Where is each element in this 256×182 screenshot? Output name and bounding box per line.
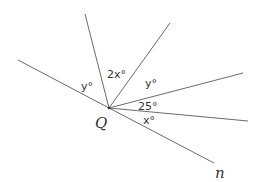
ray-upper-right — [109, 23, 170, 108]
angle-label-right: 25° — [138, 100, 158, 113]
ray-right — [109, 73, 243, 108]
point-q-label: Q — [95, 114, 107, 132]
angle-label-upper-right: y° — [145, 77, 157, 90]
angle-diagram: Q n y° 2x° y° 25° x° — [0, 0, 256, 182]
ray-up — [85, 14, 109, 108]
angle-label-left: y° — [81, 80, 93, 93]
line-n-left-ray — [18, 60, 109, 108]
angle-label-top: 2x° — [107, 68, 126, 81]
point-q-dot — [108, 107, 111, 110]
line-n-label: n — [215, 164, 225, 182]
angle-label-lower-right: x° — [143, 114, 155, 127]
